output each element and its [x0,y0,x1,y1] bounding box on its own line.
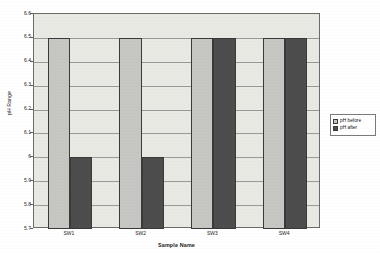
y-tick-label: 6.2 [5,106,31,111]
bar-sw2-ph-after [142,157,164,229]
y-tick-label: 6 [5,154,31,159]
y-tick-label: 5.9 [5,178,31,183]
bar-sw4-ph-after [285,38,307,229]
x-tick-label: SW2 [121,231,161,236]
bar-sw4-ph-before [263,38,285,229]
y-tick-label: 6.5 [5,34,31,39]
y-tick-label: 6.6 [5,11,31,16]
y-tick-label: 6.1 [5,130,31,135]
y-tick-label: 6.3 [5,82,31,87]
x-tick-label: SW3 [192,231,232,236]
y-tick-mark [30,228,33,229]
legend-item-after: pH after [333,125,373,132]
y-tick-label: 6.4 [5,58,31,63]
legend-item-before: pH before [333,118,373,125]
y-tick-label: 5.7 [5,226,31,231]
y-tick-label: 5.8 [5,202,31,207]
chart-legend: pH before pH after [330,114,376,136]
bar-sw1-ph-after [70,157,92,229]
x-tick-label: SW1 [49,231,89,236]
bar-sw3-ph-after [213,38,235,229]
x-axis-title: Sample Name [33,242,320,248]
plot-area [33,13,320,228]
bar-sw2-ph-before [119,38,141,229]
legend-label-before: pH before [340,119,361,124]
legend-label-after: pH after [340,126,357,131]
legend-swatch-icon-after [333,126,338,131]
bar-sw3-ph-before [191,38,213,229]
bar-chart: pH Range 6.66.56.46.36.26.165.95.85.7 SW… [0,0,380,255]
bar-sw1-ph-before [48,38,70,229]
legend-swatch-icon-before [333,119,338,124]
x-tick-label: SW4 [264,231,304,236]
